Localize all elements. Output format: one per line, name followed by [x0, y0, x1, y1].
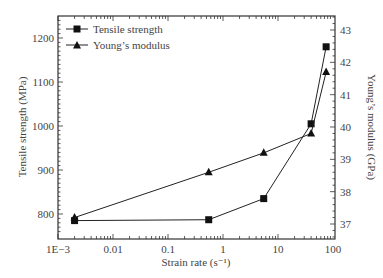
y-tick-label: 900 — [38, 164, 55, 176]
right-y-axis: 37383940414243 — [330, 17, 352, 237]
y-tick-label: 1000 — [32, 120, 55, 132]
series-youngs-modulus — [71, 68, 331, 221]
x-tick-label: 0.1 — [161, 243, 175, 255]
x-tick-label: 1 — [220, 243, 226, 255]
left-y-axis-title: Tensile strength (MPa) — [16, 76, 29, 177]
square-marker-icon — [323, 43, 330, 50]
y2-tick-label: 43 — [340, 24, 352, 36]
y2-tick-label: 39 — [340, 153, 352, 165]
x-tick-label: 100 — [325, 243, 342, 255]
x-tick-label: 0.01 — [103, 243, 122, 255]
y2-tick-label: 38 — [340, 186, 352, 198]
x-tick-label: 1E−3 — [46, 243, 70, 255]
series-tensile-strength — [71, 43, 330, 224]
x-axis: 1E−30.010.1110100 — [46, 16, 342, 255]
triangle-marker-icon — [322, 68, 330, 76]
square-marker-icon — [205, 216, 212, 223]
x-tick-label: 10 — [273, 243, 285, 255]
y2-tick-label: 42 — [340, 56, 351, 68]
y-tick-label: 800 — [38, 208, 55, 220]
legend-item-youngs-modulus: Young’s modulus — [66, 39, 170, 51]
y-tick-label: 1200 — [32, 32, 55, 44]
right-y-axis-title: Young’s modulus (GPa) — [365, 74, 378, 180]
legend: Tensile strength Young’s modulus — [66, 23, 170, 51]
x-axis-title: Strain rate (s⁻¹) — [162, 256, 231, 269]
legend-label: Young’s modulus — [93, 39, 170, 51]
square-marker-icon — [260, 195, 267, 202]
chart: 1E−30.010.1110100 800900100011001200 373… — [0, 0, 383, 278]
legend-label: Tensile strength — [93, 23, 163, 35]
legend-item-tensile-strength: Tensile strength — [66, 23, 163, 35]
y2-tick-label: 40 — [340, 121, 352, 133]
series-layer — [71, 43, 331, 224]
y2-tick-label: 41 — [340, 89, 351, 101]
y-tick-label: 1100 — [32, 76, 54, 88]
y2-tick-label: 37 — [340, 218, 352, 230]
square-marker-icon — [74, 26, 81, 33]
triangle-marker-icon — [307, 129, 315, 137]
